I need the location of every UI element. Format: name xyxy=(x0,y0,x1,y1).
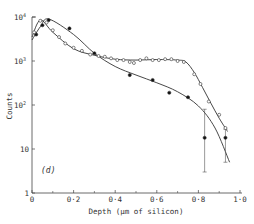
x-tick-label: 0 xyxy=(30,195,35,204)
open-circle-marker xyxy=(182,60,185,63)
y-tick-label: 1 xyxy=(24,189,29,198)
y-axis-title: Counts xyxy=(5,92,14,119)
open-circle-marker xyxy=(176,60,179,63)
open-circle-marker xyxy=(116,59,119,62)
x-axis-title: Depth (μm of silicon) xyxy=(89,207,184,216)
open-circle-marker xyxy=(97,54,100,57)
open-circle-marker xyxy=(170,58,173,61)
fit-curves xyxy=(32,19,230,162)
open-circle-marker xyxy=(39,19,42,22)
open-circle-marker xyxy=(110,57,113,60)
y-tick-label: 103 xyxy=(14,56,26,66)
filled-circle-marker xyxy=(128,73,131,76)
open-circle-marker xyxy=(132,62,135,65)
open-circle-marker xyxy=(151,59,154,62)
open-circle-marker xyxy=(199,83,202,86)
open-circle-marker xyxy=(33,31,36,34)
y-tick-label: 102 xyxy=(14,100,26,110)
y-tick-label: 104 xyxy=(14,12,26,22)
x-axis-ticks: 00·20·40·60·81·0 xyxy=(30,190,248,204)
open-circle-marker xyxy=(72,46,75,49)
filled-circle-marker xyxy=(224,136,227,139)
open-circle-marker xyxy=(128,60,131,63)
open-circle-marker xyxy=(45,21,48,24)
open-circle-marker xyxy=(164,58,167,61)
x-tick-label: 0·8 xyxy=(192,195,206,204)
y-tick-label: 10 xyxy=(20,145,30,154)
filled-circle-marker xyxy=(93,52,96,55)
open-circle-marker xyxy=(103,55,106,58)
open-circle-marker xyxy=(51,29,54,32)
x-tick-label: 0·6 xyxy=(150,195,164,204)
open-circle-marker xyxy=(193,73,196,76)
open-circle-marker xyxy=(218,113,221,116)
filled-circle-marker xyxy=(186,96,189,99)
open-circle-marker xyxy=(58,36,61,39)
open-circle-marker xyxy=(89,53,92,56)
x-tick-label: 1·0 xyxy=(233,195,247,204)
x-tick-label: 0·4 xyxy=(108,195,122,204)
open-circle-marker xyxy=(80,49,83,52)
open-circle-marker xyxy=(207,100,210,103)
open-circle-marker xyxy=(64,42,67,45)
depth-profile-chart: 00·20·40·60·81·0 110102103104 Depth (μm … xyxy=(0,0,254,224)
filled-circle-marker xyxy=(41,24,44,27)
x-tick-label: 0·2 xyxy=(67,195,81,204)
panel-label: (d) xyxy=(41,166,55,175)
open-circle-marker xyxy=(122,59,125,62)
filled-circle-marker xyxy=(151,78,154,81)
open-circle-marker xyxy=(157,59,160,62)
filled-circle-marker xyxy=(68,27,71,30)
open-circle-marker xyxy=(145,57,148,60)
filled-circle-marker xyxy=(203,136,206,139)
open-circle-marker xyxy=(224,127,227,130)
filled-circle-marker xyxy=(168,91,171,94)
open-circle-marker xyxy=(139,59,142,62)
data-markers xyxy=(33,19,228,173)
